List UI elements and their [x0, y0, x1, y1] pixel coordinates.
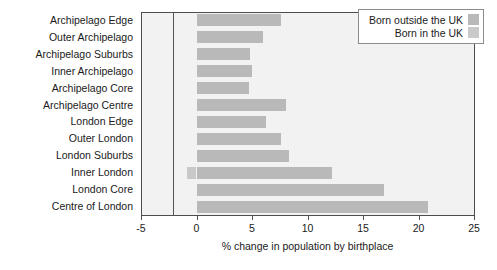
y-axis-tick-label: Centre of London	[0, 200, 133, 212]
bar	[197, 150, 289, 162]
bar	[197, 14, 281, 26]
x-axis-title-text: % change in population by birthplace	[222, 240, 394, 252]
x-axis-title: % change in population by birthplace	[141, 240, 474, 253]
x-axis-tick-mark	[252, 216, 253, 220]
x-axis-tick-label: 25	[454, 222, 494, 234]
bar	[197, 116, 267, 128]
y-axis-tick-label: Outer Archipelago	[0, 31, 133, 43]
x-axis-tick-mark	[363, 216, 364, 220]
y-axis-tick-label: London Core	[0, 183, 133, 195]
legend-item-born-outside-uk: Born outside the UK	[363, 13, 479, 26]
legend-swatch-born-outside-uk	[468, 14, 479, 25]
legend-label: Born in the UK	[395, 27, 463, 39]
bar	[197, 184, 385, 196]
y-axis-tick-label: Archipelago Edge	[0, 14, 133, 26]
y-axis-tick-label: London Suburbs	[0, 149, 133, 161]
legend: Born outside the UK Born in the UK	[358, 9, 484, 44]
x-axis-tick-mark	[141, 216, 142, 220]
bar	[197, 167, 332, 179]
y-axis-tick-label: Inner London	[0, 166, 133, 178]
bar	[197, 48, 250, 60]
x-axis-tick-label: -5	[121, 222, 161, 234]
legend-item-born-in-uk: Born in the UK	[363, 26, 479, 39]
x-axis-tick-mark	[308, 216, 309, 220]
y-axis-tick-label: Archipelago Core	[0, 82, 133, 94]
x-axis-tick-mark	[474, 216, 475, 220]
zero-reference-line	[173, 12, 174, 216]
y-axis-tick-label: Archipelago Centre	[0, 99, 133, 111]
y-axis-tick-label: Archipelago Suburbs	[0, 48, 133, 60]
legend-swatch-born-in-uk	[468, 27, 479, 38]
x-axis-tick-label: 0	[177, 222, 217, 234]
x-axis-tick-label: 5	[232, 222, 272, 234]
bar	[197, 82, 249, 94]
bar	[197, 99, 287, 111]
y-axis-tick-label: Inner Archipelago	[0, 65, 133, 77]
bar	[187, 167, 197, 179]
x-axis-tick-label: 10	[288, 222, 328, 234]
bar	[197, 31, 264, 43]
x-axis-tick-mark	[419, 216, 420, 220]
x-axis-tick-label: 20	[399, 222, 439, 234]
bar-chart: Archipelago EdgeOuter ArchipelagoArchipe…	[0, 0, 497, 270]
bar	[197, 65, 253, 77]
x-axis-tick-mark	[197, 216, 198, 220]
bar	[197, 133, 281, 145]
legend-label: Born outside the UK	[369, 14, 463, 26]
bar	[197, 201, 429, 213]
y-axis-tick-label: Outer London	[0, 132, 133, 144]
y-axis-tick-label: London Edge	[0, 115, 133, 127]
x-axis-tick-label: 15	[343, 222, 383, 234]
